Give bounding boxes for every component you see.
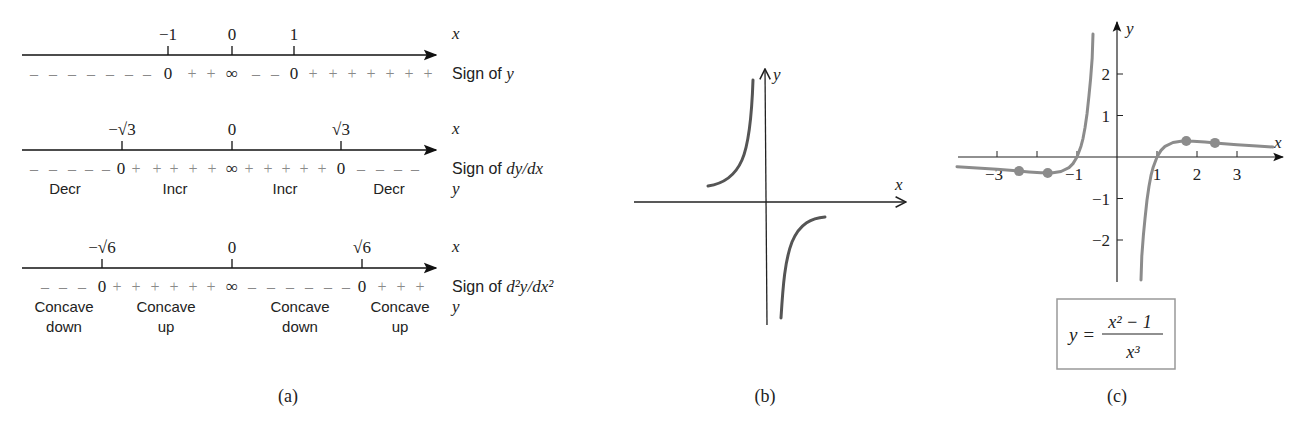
sign-mark: + bbox=[415, 278, 424, 295]
sign-chart-2: x−√30√3–––––0+++++∞+++++0––––Sign of dy/… bbox=[22, 119, 544, 198]
sign-mark: + bbox=[328, 65, 337, 82]
critical-value: ∞ bbox=[226, 277, 238, 296]
sign-mark: – bbox=[341, 278, 351, 295]
caption-b: (b) bbox=[755, 386, 776, 407]
x-axis-label: x bbox=[1273, 133, 1282, 152]
critical-value: 0 bbox=[98, 277, 107, 296]
sign-mark: + bbox=[299, 160, 308, 177]
tick-label: √3 bbox=[332, 120, 350, 139]
row-label: Sign of d²y/dx² bbox=[452, 277, 554, 296]
sign-mark: + bbox=[112, 278, 121, 295]
sign-mark: + bbox=[244, 160, 253, 177]
region-label: Concave bbox=[136, 298, 195, 315]
row-label: Sign of dy/dx bbox=[452, 159, 544, 178]
sketch-right-branch bbox=[781, 217, 825, 318]
curve-branch-1 bbox=[957, 34, 1093, 173]
axis-label-x: x bbox=[451, 24, 460, 43]
sign-mark: – bbox=[410, 160, 420, 177]
sign-chart-3: x−√60√6–––0++++++∞––––––0+++Sign of d²y/… bbox=[22, 237, 554, 335]
x-axis-label: x bbox=[894, 175, 903, 194]
sign-mark: + bbox=[423, 65, 432, 82]
formula-numerator: x² − 1 bbox=[1107, 312, 1152, 332]
region-label: Decr bbox=[373, 180, 405, 197]
sign-mark: – bbox=[393, 160, 403, 177]
axis-label-x: x bbox=[451, 237, 460, 256]
critical-value: 0 bbox=[358, 277, 367, 296]
tick-label: 0 bbox=[228, 238, 237, 257]
sign-chart-1: x−101–––––––0++∞––0+++++++Sign of y bbox=[22, 24, 514, 83]
y-axis-label: y bbox=[1124, 19, 1134, 38]
y-tick-label: −1 bbox=[1092, 190, 1110, 209]
sign-mark: – bbox=[251, 65, 261, 82]
sign-mark: – bbox=[67, 160, 77, 177]
tick-label: −√3 bbox=[108, 120, 135, 139]
region-label: Incr bbox=[162, 180, 187, 197]
sign-mark: – bbox=[58, 278, 68, 295]
sign-mark: + bbox=[206, 278, 215, 295]
critical-value: 0 bbox=[117, 159, 126, 178]
sign-mark: + bbox=[207, 160, 216, 177]
sign-mark: + bbox=[150, 278, 159, 295]
critical-value: 0 bbox=[164, 64, 173, 83]
panel-b-sketch: x y bbox=[634, 65, 906, 325]
sign-mark: + bbox=[377, 278, 386, 295]
sign-mark: – bbox=[40, 278, 50, 295]
y-tick-label: 1 bbox=[1102, 107, 1111, 126]
sign-mark: – bbox=[247, 278, 257, 295]
axis-label-y: y bbox=[450, 297, 460, 316]
sign-mark: – bbox=[86, 65, 96, 82]
region-label: Concave bbox=[270, 298, 329, 315]
region-label-line2: down bbox=[282, 318, 318, 335]
sign-mark: – bbox=[124, 65, 134, 82]
sign-mark: + bbox=[169, 278, 178, 295]
tick-label: −1 bbox=[159, 25, 177, 44]
sign-mark: + bbox=[366, 65, 375, 82]
sign-mark: – bbox=[29, 160, 39, 177]
sign-mark: + bbox=[131, 278, 140, 295]
region-label-line2: down bbox=[46, 318, 82, 335]
marked-point bbox=[1210, 138, 1220, 148]
sign-mark: + bbox=[385, 65, 394, 82]
sign-mark: – bbox=[84, 160, 94, 177]
region-label: Concave bbox=[34, 298, 93, 315]
sign-mark: – bbox=[323, 278, 333, 295]
sign-mark: + bbox=[188, 160, 197, 177]
tick-label: √6 bbox=[353, 238, 371, 257]
sign-mark: + bbox=[263, 160, 272, 177]
sign-mark: – bbox=[77, 278, 87, 295]
sign-mark: + bbox=[396, 278, 405, 295]
panel-c-graph: xy−3−1123−2−112 bbox=[957, 19, 1283, 282]
tick-label: 0 bbox=[228, 120, 237, 139]
sign-mark: – bbox=[101, 160, 111, 177]
sign-mark: + bbox=[187, 65, 196, 82]
figure-canvas: x−101–––––––0++∞––0+++++++Sign of yx−√30… bbox=[0, 0, 1303, 428]
caption-a: (a) bbox=[278, 386, 298, 407]
region-label-line2: up bbox=[392, 318, 409, 335]
sign-mark: + bbox=[152, 160, 161, 177]
sign-mark: – bbox=[67, 65, 77, 82]
region-label: Concave bbox=[370, 298, 429, 315]
caption-c: (c) bbox=[1107, 386, 1127, 407]
critical-value: 0 bbox=[290, 64, 299, 83]
y-axis-label: y bbox=[771, 65, 781, 84]
sign-mark: – bbox=[375, 160, 385, 177]
sign-mark: + bbox=[317, 160, 326, 177]
sign-mark: + bbox=[188, 278, 197, 295]
critical-value: 0 bbox=[337, 159, 346, 178]
curve-branch-2 bbox=[1141, 141, 1273, 280]
row-label: Sign of y bbox=[452, 64, 514, 83]
panel-a-sign-charts: x−101–––––––0++∞––0+++++++Sign of yx−√30… bbox=[22, 24, 554, 335]
sign-mark: + bbox=[169, 160, 178, 177]
axis-label-y: y bbox=[450, 179, 460, 198]
y-tick-label: 2 bbox=[1102, 65, 1111, 84]
formula-lhs: y = bbox=[1067, 324, 1095, 345]
critical-value: ∞ bbox=[226, 64, 238, 83]
sign-mark: – bbox=[270, 65, 280, 82]
x-tick-label: 3 bbox=[1233, 165, 1242, 184]
sign-mark: + bbox=[131, 160, 140, 177]
y-tick-label: −2 bbox=[1092, 231, 1110, 250]
axis-label-x: x bbox=[451, 119, 460, 138]
sign-mark: – bbox=[356, 160, 366, 177]
sign-mark: + bbox=[308, 65, 317, 82]
sign-mark: – bbox=[105, 65, 115, 82]
